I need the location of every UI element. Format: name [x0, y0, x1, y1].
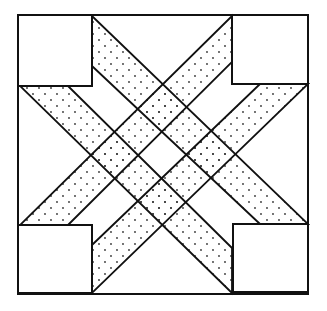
corner-square-bottom-left	[18, 225, 92, 293]
corner-square-top-right	[232, 15, 308, 84]
corner-square-top-left	[18, 15, 92, 86]
quilt-block-diagram	[0, 0, 327, 311]
corner-square-bottom-right	[233, 224, 308, 292]
